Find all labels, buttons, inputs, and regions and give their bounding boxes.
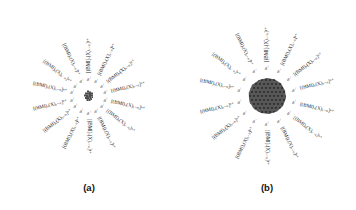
aggregate-formula: [(BMI)ₓ(X)ₓ₋ₙ]ⁿ⁺ [199,78,234,91]
nanoparticle-small [83,90,96,103]
partial-charge-symbol: δ+ [238,87,242,92]
panel-b: [(BMI)ₓ(X)ₓ₋ₙ]ⁿ⁺[(BMI)ₓ(X)ₓ₋ₙ]ⁿ⁺[(BMI)ₓ(… [178,0,356,210]
aggregate-formula: [(BMI)ₓ(X)ₓ₋ₙ]ⁿ⁺ [32,99,67,112]
partial-charge-symbol: δ+ [94,78,98,83]
panel-caption-a: (a) [0,182,178,193]
partial-charge-symbol: δ+ [100,83,104,88]
aggregate-formula: [(BMI)ₓ(X)ₓ₋ₙ]ⁿ⁺ [264,130,269,165]
partial-charge-symbol: δ+ [277,68,281,73]
aggregate-formula: [(BMI)ₓ(X)ₓ₋ₙ]ⁿ⁺ [86,119,91,154]
partial-charge-symbol: δ+ [287,111,291,116]
aggregate-formula: [(BMI)ₓ(X)ₓ₋ₙ]ⁿ⁺ [111,99,146,112]
partial-charge-symbol: δ+ [87,111,91,116]
aggregate-formula: [(BMI)ₓ(X)ₓ₋ₙ]ⁿ⁺ [199,101,234,114]
aggregate-formula: [(BMI)ₓ(X)ₓ₋ₙ]ⁿ⁺ [106,58,137,83]
figure-root: [(BMI)ₓ(X)ₓ₋ₙ]ⁿ⁺[(BMI)ₓ(X)ₓ₋ₙ]ⁿ⁺[(BMI)ₓ(… [0,0,356,210]
partial-charge-symbol: δ+ [100,104,104,109]
aggregate-formula: [(BMI)ₓ(X)ₓ₋ₙ]ⁿ⁺ [42,58,73,83]
partial-charge-symbol: δ+ [87,77,91,82]
partial-charge-symbol: δ+ [243,76,247,81]
partial-charge-symbol: δ+ [265,66,269,71]
aggregate-formula: [(BMI)ₓ(X)ₓ₋ₙ]ⁿ⁺ [292,115,323,140]
aggregate-formula: [(BMI)ₓ(X)ₓ₋ₙ]ⁿ⁺ [280,33,300,67]
partial-charge-symbol: δ+ [253,119,257,124]
aggregate-formula: [(BMI)ₓ(X)ₓ₋ₙ]ⁿ⁺ [32,81,67,94]
partial-charge-symbol: δ+ [70,90,74,95]
partial-charge-symbol: δ+ [243,111,247,116]
aggregate-formula: [(BMI)ₓ(X)ₓ₋ₙ]ⁿ⁺ [235,125,255,159]
partial-charge-symbol: δ+ [238,100,242,105]
partial-charge-symbol: δ+ [292,87,296,92]
partial-charge-symbol: δ+ [103,90,107,95]
aggregate-formula: [(BMI)ₓ(X)ₓ₋ₙ]ⁿ⁺ [292,52,323,77]
partial-charge-symbol: δ+ [79,109,83,114]
partial-charge-symbol: δ+ [277,119,281,124]
partial-charge-symbol: δ+ [265,122,269,127]
aggregate-formula: [(BMI)ₓ(X)ₓ₋ₙ]ⁿ⁺ [106,108,137,133]
panel-caption-b: (b) [178,182,356,193]
partial-charge-symbol: δ+ [253,68,257,73]
aggregate-formula: [(BMI)ₓ(X)ₓ₋ₙ]ⁿ⁺ [300,78,335,91]
partial-charge-symbol: δ+ [103,97,107,102]
aggregate-formula: [(BMI)ₓ(X)ₓ₋ₙ]ⁿ⁺ [86,38,91,73]
partial-charge-symbol: δ+ [287,76,291,81]
aggregate-formula: [(BMI)ₓ(X)ₓ₋ₙ]ⁿ⁺ [280,125,300,159]
partial-charge-symbol: δ+ [70,97,74,102]
aggregate-formula: [(BMI)ₓ(X)ₓ₋ₙ]ⁿ⁺ [211,52,242,77]
partial-charge-symbol: δ+ [73,104,77,109]
aggregate-formula: [(BMI)ₓ(X)ₓ₋ₙ]ⁿ⁺ [97,116,117,150]
aggregate-formula: [(BMI)ₓ(X)ₓ₋ₙ]ⁿ⁺ [235,33,255,67]
panel-a: [(BMI)ₓ(X)ₓ₋ₙ]ⁿ⁺[(BMI)ₓ(X)ₓ₋ₙ]ⁿ⁺[(BMI)ₓ(… [0,0,178,210]
aggregate-formula: [(BMI)ₓ(X)ₓ₋ₙ]ⁿ⁺ [111,81,146,94]
partial-charge-symbol: δ+ [292,100,296,105]
partial-charge-symbol: δ+ [94,109,98,114]
nanoparticle-large [247,77,287,115]
partial-charge-symbol: δ+ [79,78,83,83]
aggregate-formula: [(BMI)ₓ(X)ₓ₋ₙ]ⁿ⁺ [211,115,242,140]
partial-charge-symbol: δ+ [73,83,77,88]
aggregate-formula: [(BMI)ₓ(X)ₓ₋ₙ]ⁿ⁺ [61,116,81,150]
aggregate-formula: [(BMI)ₓ(X)ₓ₋ₙ]ⁿ⁺ [300,101,335,114]
aggregate-formula: [(BMI)ₓ(X)ₓ₋ₙ]ⁿ⁺ [264,27,269,62]
